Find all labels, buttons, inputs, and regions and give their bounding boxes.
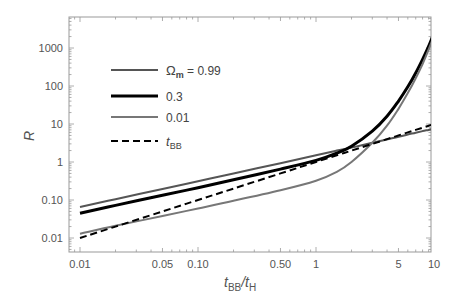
y-tick-label: 100 xyxy=(45,80,63,92)
legend-label-0: Ωm = 0.99 xyxy=(166,63,221,80)
x-tick-label: 0.50 xyxy=(270,258,291,270)
series-layer xyxy=(80,33,434,238)
legend-label-2: 0.01 xyxy=(166,111,190,125)
x-tick-label: 1 xyxy=(313,258,319,270)
x-axis-ticks: 0.010.050.100.501510 xyxy=(69,17,440,270)
y-tick-label: 1000 xyxy=(39,42,63,54)
plot-frame xyxy=(69,17,431,252)
x-tick-label: 10 xyxy=(428,258,440,270)
x-tick-label: 5 xyxy=(395,258,401,270)
legend-label-3: tBB xyxy=(166,134,182,151)
x-axis-title: tBB/tH xyxy=(224,274,256,293)
x-tick-label: 0.01 xyxy=(69,258,90,270)
y-tick-label: 0.01 xyxy=(42,232,63,244)
y-tick-label: 10 xyxy=(51,118,63,130)
series-line-2 xyxy=(80,36,434,234)
y-tick-label: 0.10 xyxy=(42,194,63,206)
legend: Ωm = 0.990.30.01tBB xyxy=(111,63,221,151)
y-tick-label: 1 xyxy=(57,156,63,168)
x-tick-label: 0.05 xyxy=(152,258,173,270)
legend-label-1: 0.3 xyxy=(166,90,183,104)
series-line-1 xyxy=(80,33,434,213)
y-axis-title: R xyxy=(21,131,37,141)
x-axis-title-sub2: H xyxy=(249,282,256,293)
x-axis-title-sub1: BB xyxy=(228,282,242,293)
y-axis-ticks: 0.010.101101001000 xyxy=(39,18,431,249)
log-log-line-chart: 0.010.101101001000 0.010.050.100.501510 … xyxy=(0,0,454,305)
x-tick-label: 0.10 xyxy=(187,258,208,270)
